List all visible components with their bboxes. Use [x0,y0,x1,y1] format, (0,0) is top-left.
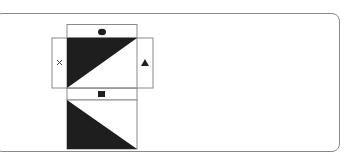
square-icon [98,91,105,97]
circle-icon [98,29,106,36]
triangle-icon [141,59,149,66]
cube-net-diagram [0,0,359,166]
cross-icon [57,60,62,65]
